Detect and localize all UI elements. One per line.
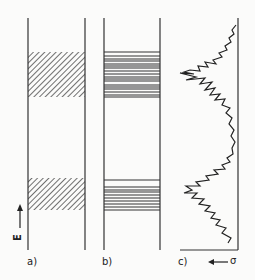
- panel-a: [28, 18, 85, 250]
- cross-section-curve: [180, 25, 236, 243]
- panel-b-label: b): [102, 256, 112, 267]
- figure: E a) b) c) σ: [0, 0, 255, 280]
- sigma-label: σ: [230, 255, 236, 266]
- hatched-band-upper: [28, 52, 85, 97]
- arrow-up-icon: [17, 204, 23, 211]
- panel-a-label: a): [27, 256, 37, 267]
- arrow-left-icon: [208, 259, 214, 265]
- energy-axis-label: E: [12, 234, 23, 241]
- hatched-band-lower: [28, 178, 85, 210]
- panel-b: [104, 18, 160, 250]
- panel-c: [180, 18, 238, 265]
- panel-c-label: c): [178, 256, 187, 267]
- diagram-canvas: [0, 0, 255, 280]
- energy-axis-arrow: [17, 204, 23, 228]
